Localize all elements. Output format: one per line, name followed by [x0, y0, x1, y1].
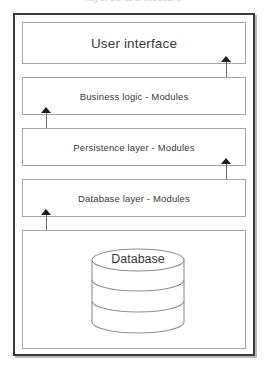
database-cylinder-icon: Database	[91, 248, 185, 340]
arrowhead-up-icon	[41, 209, 51, 215]
layer-label-business-logic: Business logic - Modules	[80, 91, 189, 102]
layer-box-user-interface[interactable]: User interface	[22, 22, 246, 64]
layer-box-database-layer[interactable]: Database layer - Modules	[22, 179, 246, 217]
diagram-frame: User interface Business logic - Modules …	[13, 13, 255, 356]
clipped-caption-remnant: layered architecture	[0, 0, 267, 3]
arrowhead-up-icon	[41, 107, 51, 113]
layer-label-persistence: Persistence layer - Modules	[73, 142, 194, 153]
layer-box-persistence[interactable]: Persistence layer - Modules	[22, 128, 246, 166]
layer-label-database-layer: Database layer - Modules	[78, 193, 190, 204]
layer-label-user-interface: User interface	[91, 36, 177, 51]
layer-box-business-logic[interactable]: Business logic - Modules	[22, 77, 246, 115]
arrowhead-up-icon	[221, 56, 231, 62]
database-cylinder-label: Database	[91, 252, 185, 266]
layer-box-database[interactable]: Database	[22, 230, 246, 349]
arrowhead-up-icon	[221, 158, 231, 164]
